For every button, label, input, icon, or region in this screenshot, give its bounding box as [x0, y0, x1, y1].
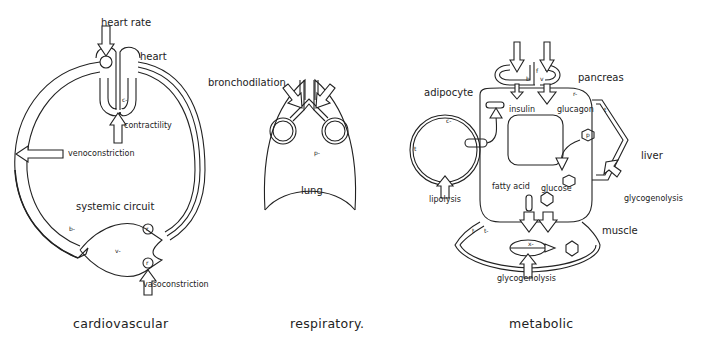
- label-pancreas: pancreas: [578, 73, 624, 83]
- symbol-t-liver: t: [604, 107, 606, 113]
- label-heart-rate: heart rate: [101, 18, 151, 28]
- label-glucagon: glucagon: [557, 106, 594, 114]
- caption-metabolic: metabolic: [509, 318, 574, 331]
- symbol-p: p-: [314, 150, 320, 156]
- label-fatty-acid: fatty acid: [492, 183, 530, 191]
- symbol-b-pancreas: b: [526, 76, 530, 82]
- symbol-r-top: r: [146, 226, 148, 232]
- symbol-t-muscle: t: [472, 228, 474, 234]
- caption-respiratory: respiratory.: [290, 318, 364, 331]
- label-glycogenolysis-muscle: glycogenolysis: [497, 275, 556, 283]
- diagram-canvas: [0, 0, 707, 337]
- symbol-b: b-: [69, 226, 75, 232]
- symbol-r: r-: [573, 91, 577, 97]
- label-glucose: glucose: [541, 185, 572, 193]
- symbol-f-pancreas: f: [536, 68, 538, 74]
- label-systemic-circuit: systemic circuit: [76, 202, 154, 212]
- symbol-c-adipocyte: c-: [446, 118, 451, 124]
- label-lipolysis: lipolysis: [429, 196, 461, 204]
- caption-cardiovascular: cardiovascular: [73, 318, 168, 331]
- symbol-t-adipocyte: t: [414, 146, 416, 152]
- label-insulin: insulin: [509, 106, 535, 114]
- label-adipocyte: adipocyte: [424, 88, 473, 98]
- label-venoconstriction: venoconstriction: [68, 150, 135, 158]
- label-muscle: muscle: [602, 226, 638, 236]
- label-glycogenolysis-liver: glycogenolysis: [624, 195, 683, 203]
- label-contractility: contractility: [124, 122, 172, 130]
- symbol-v-pancreas: v: [540, 76, 544, 82]
- symbol-v: v-: [115, 248, 121, 254]
- symbol-x: x-: [528, 241, 534, 247]
- label-heart: heart: [140, 52, 167, 62]
- symbol-p-liver: p: [586, 132, 590, 138]
- symbol-c: c-: [122, 97, 127, 103]
- cardiovascular-diagram: [15, 26, 205, 295]
- label-vasoconstriction: vasoconstriction: [143, 281, 209, 289]
- label-bronchodilation: bronchodilation: [208, 78, 286, 88]
- label-lung: lung: [301, 186, 323, 196]
- symbol-t-minus: t-: [484, 228, 489, 234]
- label-liver: liver: [641, 151, 663, 161]
- symbol-r-bottom: r: [146, 260, 148, 266]
